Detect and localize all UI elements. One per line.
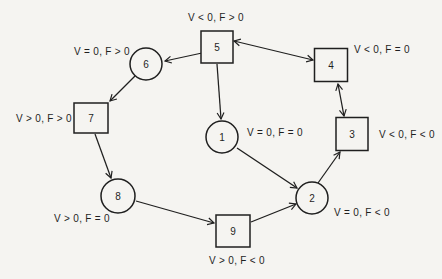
nodes-layer: 564731829 [74,31,368,247]
condition-label: V > 0, F < 0 [209,255,265,266]
condition-label: V > 0, F = 0 [54,213,110,224]
node-label: 7 [88,113,94,124]
node-label: 4 [328,60,334,71]
node-label: 3 [349,129,355,140]
node-label: 6 [143,59,149,70]
node-1: 1 [206,121,238,153]
condition-label: V < 0, F = 0 [354,44,410,55]
condition-label: V > 0, F > 0 [16,113,72,124]
node-label: 8 [115,191,121,202]
edge-5-to-4 [234,41,313,60]
edge-2-to-3 [318,152,340,183]
edge-9-to-2 [251,204,296,222]
condition-label: V = 0, F = 0 [247,127,303,138]
state-transition-diagram: 564731829 V < 0, F > 0V = 0, F > 0V < 0,… [0,0,442,279]
node-2: 2 [296,182,328,214]
edge-1-to-2 [237,148,297,188]
edge-3-to-4 [338,84,344,116]
node-label: 1 [219,132,225,143]
node-9: 9 [216,215,250,247]
node-5: 5 [201,31,233,63]
edge-6-to-7 [110,76,135,101]
edge-8-to-9 [136,201,214,223]
node-label: 2 [309,193,315,204]
node-label: 5 [214,42,220,53]
edge-5-to-6 [165,53,202,61]
node-6: 6 [130,48,162,80]
node-4: 4 [315,49,348,82]
condition-label: V = 0, F > 0 [74,46,130,57]
condition-label: V < 0, F > 0 [188,12,244,23]
node-8: 8 [101,179,135,213]
edge-7-to-8 [95,134,111,178]
condition-label: V < 0, F < 0 [379,129,435,140]
node-3: 3 [336,118,368,151]
condition-label: V = 0, F < 0 [334,207,390,218]
node-7: 7 [74,103,108,133]
diagram-canvas: 564731829 V < 0, F > 0V = 0, F > 0V < 0,… [0,0,442,279]
edge-5-to-1 [217,64,221,119]
node-label: 9 [230,226,236,237]
